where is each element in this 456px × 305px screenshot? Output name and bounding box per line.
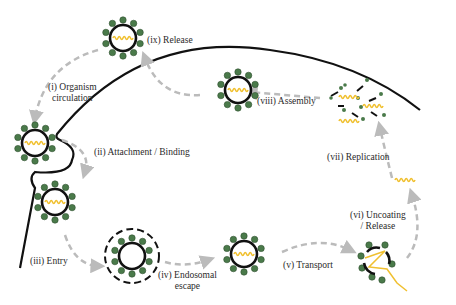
assembly-fragments bbox=[329, 78, 386, 123]
step-i-label: (i) Organismcirculation bbox=[48, 82, 97, 104]
step-ix-label: (ix) Release bbox=[147, 35, 193, 46]
virion-assembled bbox=[218, 69, 259, 111]
endosome bbox=[105, 229, 159, 283]
step-vii-label: (vii) Replication bbox=[327, 152, 390, 163]
step-v-label: (v) Transport bbox=[283, 260, 333, 271]
step-vi-label: (vi) Uncoating/ Release bbox=[350, 210, 406, 232]
virion-transport bbox=[224, 233, 265, 275]
uncoating-virion bbox=[358, 242, 407, 291]
step-iv-label: (iv) Endosomalescape bbox=[158, 270, 217, 292]
step-iii-label: (iii) Entry bbox=[30, 256, 68, 267]
step-ii-label: (ii) Attachment / Binding bbox=[94, 147, 190, 158]
replicated-genome bbox=[395, 179, 415, 182]
virion-entry bbox=[35, 181, 76, 223]
virion-circulating bbox=[15, 122, 56, 164]
step-viii-label: (viii) Assembly bbox=[257, 96, 316, 107]
virion-release bbox=[103, 17, 144, 59]
